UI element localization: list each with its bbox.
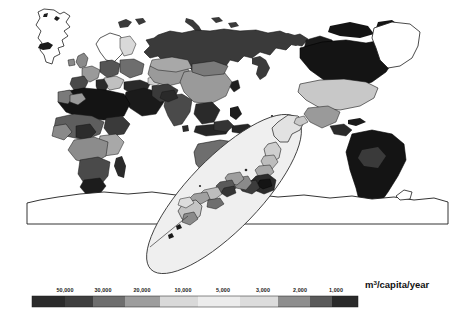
legend-unit-base: m bbox=[365, 279, 373, 290]
legend-swatch-6 bbox=[240, 296, 278, 307]
legend-tick-label-4: 5,000 bbox=[216, 287, 230, 293]
legend-swatch-9 bbox=[332, 296, 358, 307]
japan-oki-island bbox=[199, 185, 201, 187]
legend-colorbar bbox=[32, 296, 358, 307]
legend-tick-label-1: 30,000 bbox=[94, 287, 111, 293]
legend-tick-label-0: 50,000 bbox=[56, 287, 73, 293]
japan-sado-island bbox=[245, 169, 248, 172]
legend-swatch-5 bbox=[198, 296, 240, 307]
legend-tick-label-5: 3,000 bbox=[256, 287, 270, 293]
region-sri-lanka bbox=[182, 125, 189, 132]
legend-swatch-3 bbox=[125, 296, 160, 307]
map-figure-svg: 50,000 30,000 20,000 10,000 5,000 3,000 … bbox=[0, 0, 463, 323]
legend-swatch-1 bbox=[65, 296, 93, 307]
legend-tick-label-6: 2,000 bbox=[293, 287, 307, 293]
legend-unit-rest: /capita/year bbox=[377, 279, 430, 290]
legend-swatch-4 bbox=[160, 296, 198, 307]
legend-tick-label-2: 20,000 bbox=[133, 287, 150, 293]
legend-swatch-8 bbox=[310, 296, 332, 307]
legend-tick-label-7: 1,000 bbox=[329, 287, 343, 293]
figure-container: 50,000 30,000 20,000 10,000 5,000 3,000 … bbox=[0, 0, 463, 323]
legend-swatch-2 bbox=[93, 296, 125, 307]
legend-swatch-7 bbox=[278, 296, 310, 307]
legend-swatch-0 bbox=[32, 296, 65, 307]
legend-tick-label-3: 10,000 bbox=[174, 287, 191, 293]
